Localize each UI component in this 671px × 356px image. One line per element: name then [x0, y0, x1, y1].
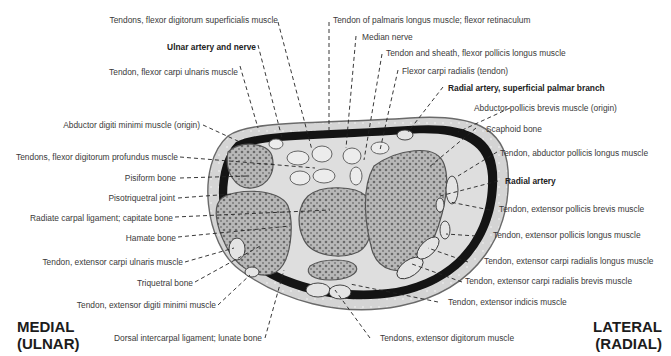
label-extensor-carpi-radialis-longus: Tendon, extensor carpi radialis longus m… — [484, 256, 653, 266]
orientation-medial: MEDIAL (ULNAR) — [17, 318, 79, 352]
label-pisotriquetral-joint: Pisotriquetral joint — [70, 193, 175, 203]
label-extensor-digitorum: Tendons, extensor digitorum muscle — [380, 333, 514, 343]
label-abductor-pollicis-brevis: Abductor pollicis brevis muscle (origin) — [474, 103, 617, 113]
label-ulnar-artery-nerve: Ulnar artery and nerve — [120, 42, 256, 52]
label-extensor-carpi-ulnaris: Tendon, extensor carpi ulnaris muscle — [10, 257, 183, 267]
label-extensor-indicis: Tendon, extensor indicis muscle — [448, 297, 567, 307]
hamate-triquetral-bone — [216, 191, 291, 275]
orientation-lateral-line2: (RADIAL) — [590, 335, 662, 352]
label-hamate-bone: Hamate bone — [80, 233, 176, 243]
label-extensor-pollicis-brevis: Tendon, extensor pollicis brevis muscle — [499, 204, 644, 214]
label-extensor-carpi-radialis-brevis: Tendon, extensor carpi radialis brevis m… — [465, 276, 632, 286]
label-flexor-carpi-radialis: Flexor carpi radialis (tendon) — [402, 66, 508, 76]
label-palmaris-longus-retinaculum: Tendon of palmaris longus muscle; flexor… — [333, 15, 530, 25]
orientation-medial-line2: (ULNAR) — [17, 335, 79, 352]
orientation-lateral-line1: LATERAL — [590, 318, 662, 335]
capitate-bone — [299, 188, 372, 256]
label-flexor-carpi-ulnaris: Tendon, flexor carpi ulnaris muscle — [90, 67, 238, 77]
label-dorsal-intercarpal-lunate: Dorsal intercarpal ligament; lunate bone — [70, 333, 262, 343]
label-radial-artery-superficial-palmar-branch: Radial artery, superficial palmar branch — [448, 83, 605, 93]
label-abductor-pollicis-longus: Tendon, abductor pollicis longus muscle — [500, 148, 648, 158]
label-radiate-carpal-ligament-capitate: Radiate carpal ligament; capitate bone — [10, 213, 173, 223]
label-flexor-digitorum-profundus: Tendons, flexor digitorum profundus musc… — [4, 152, 178, 162]
lunate-bone — [308, 260, 356, 280]
label-pisiform-bone: Pisiform bone — [80, 173, 176, 183]
label-scaphoid-bone: Scaphoid bone — [486, 124, 542, 134]
orientation-lateral: LATERAL (RADIAL) — [590, 318, 662, 352]
label-radial-artery: Radial artery — [505, 176, 556, 186]
label-extensor-pollicis-longus: Tendon, extensor pollicis longus muscle — [493, 230, 641, 240]
label-abductor-digiti-minimi: Abductor digiti minimi muscle (origin) — [20, 120, 200, 130]
label-flexor-digitorum-superficialis: Tendons, flexor digitorum superficialis … — [98, 15, 278, 25]
label-extensor-digiti-minimi: Tendon, extensor digiti minimi muscle — [40, 300, 216, 310]
label-flexor-pollicis-longus: Tendon and sheath, flexor pollicis longu… — [386, 48, 566, 58]
label-triquetral-bone: Triquetral bone — [100, 278, 193, 288]
orientation-medial-line1: MEDIAL — [17, 318, 79, 335]
label-median-nerve: Median nerve — [362, 32, 413, 42]
